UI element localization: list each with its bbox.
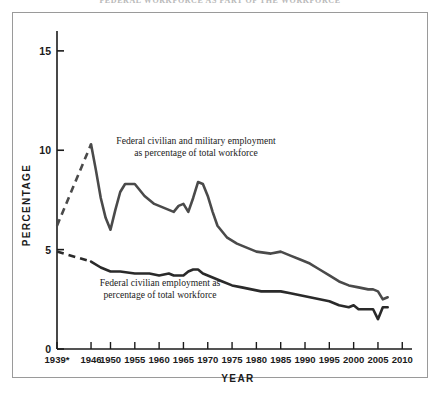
line-chart-plot: 051015 1939*1946195019551960196519701975…	[0, 0, 440, 400]
annotation-series-1-line1: Federal civilian employment as	[100, 277, 221, 288]
x-ticklabel-1960: 1960	[149, 354, 170, 365]
x-axis-ticks	[57, 342, 402, 349]
y-ticklabel-15: 15	[39, 45, 51, 57]
x-ticklabel-2005: 2005	[367, 354, 389, 365]
annotation-series-0-line2: as percentage of total workforce	[134, 147, 258, 158]
x-axis-ticklabels: 1939*19461950195519601965197019751980198…	[45, 354, 413, 365]
x-ticklabel-1980: 1980	[246, 354, 267, 365]
x-ticklabel-1995: 1995	[319, 354, 341, 365]
annotation-civilian-workforce: Federal civilian employment as percentag…	[100, 277, 221, 300]
y-axis-ticks	[57, 51, 64, 349]
x-ticklabel-1970: 1970	[197, 354, 218, 365]
x-ticklabel-1985: 1985	[270, 354, 292, 365]
y-axis-group: 051015	[39, 31, 64, 355]
y-ticklabel-5: 5	[45, 244, 51, 256]
x-ticklabel-1939*: 1939*	[45, 354, 70, 365]
y-ticklabel-10: 10	[39, 144, 51, 156]
x-ticklabel-1946: 1946	[80, 354, 101, 365]
chart-figure: FEDERAL WORKFORCE AS PART OF THE WORKFOR…	[0, 0, 440, 400]
x-ticklabel-1950: 1950	[100, 354, 121, 365]
annotation-series-0-line1: Federal civilian and military employment	[116, 135, 276, 146]
series-0-dashed-segment	[57, 144, 91, 225]
annotation-total-workforce: Federal civilian and military employment…	[116, 135, 276, 158]
x-ticklabel-1955: 1955	[124, 354, 146, 365]
x-axis-title: YEAR	[221, 373, 254, 384]
x-ticklabel-1975: 1975	[221, 354, 243, 365]
y-axis-ticklabels: 051015	[39, 45, 51, 355]
x-ticklabel-2000: 2000	[343, 354, 364, 365]
x-axis-group: 1939*19461950195519601965197019751980198…	[45, 342, 413, 365]
annotation-series-1-line2: percentage of total workforce	[103, 289, 216, 300]
x-ticklabel-1990: 1990	[294, 354, 315, 365]
x-ticklabel-1965: 1965	[173, 354, 195, 365]
x-ticklabel-2010: 2010	[392, 354, 413, 365]
y-axis-title: PERCENTAGE	[21, 164, 32, 247]
series-1-dashed-segment	[57, 252, 91, 262]
